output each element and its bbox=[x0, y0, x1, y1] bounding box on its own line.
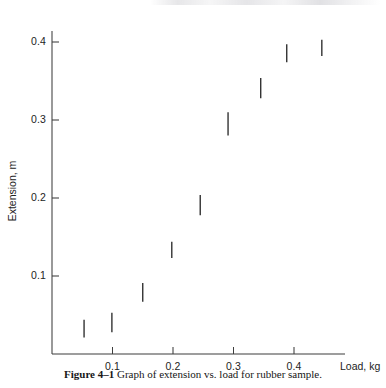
y-tick-label-0.3: 0.3 bbox=[4, 113, 46, 125]
x-tick-marks bbox=[113, 347, 295, 354]
y-tick-label-0.4: 0.4 bbox=[4, 35, 46, 47]
figure-caption: Figure 4–1 Graph of extension vs. load f… bbox=[0, 368, 386, 380]
y-tick-marks bbox=[52, 42, 59, 276]
extension-vs-load-chart bbox=[0, 0, 386, 388]
figure-container: 0.10.20.30.4 0.10.20.30.4 Load, kg Exten… bbox=[0, 0, 386, 388]
axes-group bbox=[52, 31, 345, 354]
data-marker-group bbox=[84, 40, 322, 338]
figure-caption-text: Graph of extension vs. load for rubber s… bbox=[117, 368, 322, 380]
y-axis-title: Extension, m bbox=[6, 151, 18, 231]
figure-caption-label: Figure 4–1 bbox=[64, 368, 114, 380]
y-tick-label-0.1: 0.1 bbox=[4, 269, 46, 281]
